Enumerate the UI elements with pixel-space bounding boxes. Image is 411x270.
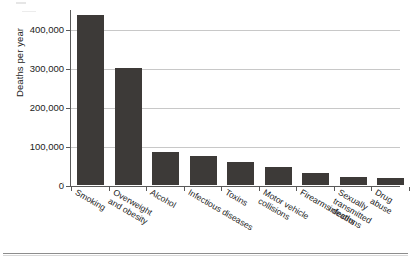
page-divider-rule	[3, 253, 408, 254]
x-axis-label: Overweight and obesity	[106, 188, 154, 227]
page-divider-rule-shadow	[3, 255, 408, 256]
bar	[265, 167, 292, 185]
bar-chart-figure: Deaths per year 0100,000200,000300,00040…	[0, 0, 411, 270]
y-tick-label: 300,000	[30, 64, 64, 74]
bar	[302, 173, 329, 185]
bar	[115, 68, 142, 185]
bar	[190, 156, 217, 185]
x-axis-label: Toxins	[223, 188, 249, 208]
gridline	[70, 30, 400, 31]
scan-artifact	[22, 11, 36, 12]
plot-area: 0100,000200,000300,000400,000	[70, 10, 400, 186]
x-axis-category-labels: SmokingOverweight and obesityAlcoholInfe…	[70, 188, 410, 258]
scan-artifact	[62, 182, 64, 184]
scan-artifact	[16, 2, 26, 4]
x-axis-label: Infectious diseases	[186, 188, 254, 233]
x-axis-label: Smoking	[73, 188, 107, 213]
y-tick-label: 100,000	[30, 142, 64, 152]
bar	[227, 162, 254, 185]
x-axis-line	[70, 186, 400, 187]
bar	[340, 177, 367, 185]
y-axis-line	[70, 10, 71, 187]
y-tick-label: 200,000	[30, 103, 64, 113]
y-tick-label: 400,000	[30, 25, 64, 35]
y-axis-title: Deaths per year	[14, 3, 25, 123]
bar	[77, 15, 104, 185]
bar	[152, 152, 179, 185]
bar	[377, 178, 404, 185]
